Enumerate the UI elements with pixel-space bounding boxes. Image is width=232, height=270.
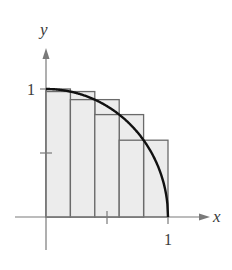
y-tick-label-1: 1 xyxy=(27,81,35,98)
lower-rectangles xyxy=(46,92,144,217)
upper-rectangle-5 xyxy=(144,140,168,217)
y-axis-label: y xyxy=(38,20,48,39)
lower-rectangle-2 xyxy=(70,100,94,217)
x-axis-label: x xyxy=(212,207,221,226)
y-axis-arrow-icon xyxy=(43,48,50,59)
riemann-sum-diagram: y x 1 1 xyxy=(0,0,232,270)
x-axis-arrow-icon xyxy=(199,214,210,221)
lower-rectangle-4 xyxy=(119,140,143,217)
lower-rectangle-3 xyxy=(95,115,119,217)
lower-rectangle-1 xyxy=(46,92,70,217)
x-tick-label-1: 1 xyxy=(164,231,172,248)
